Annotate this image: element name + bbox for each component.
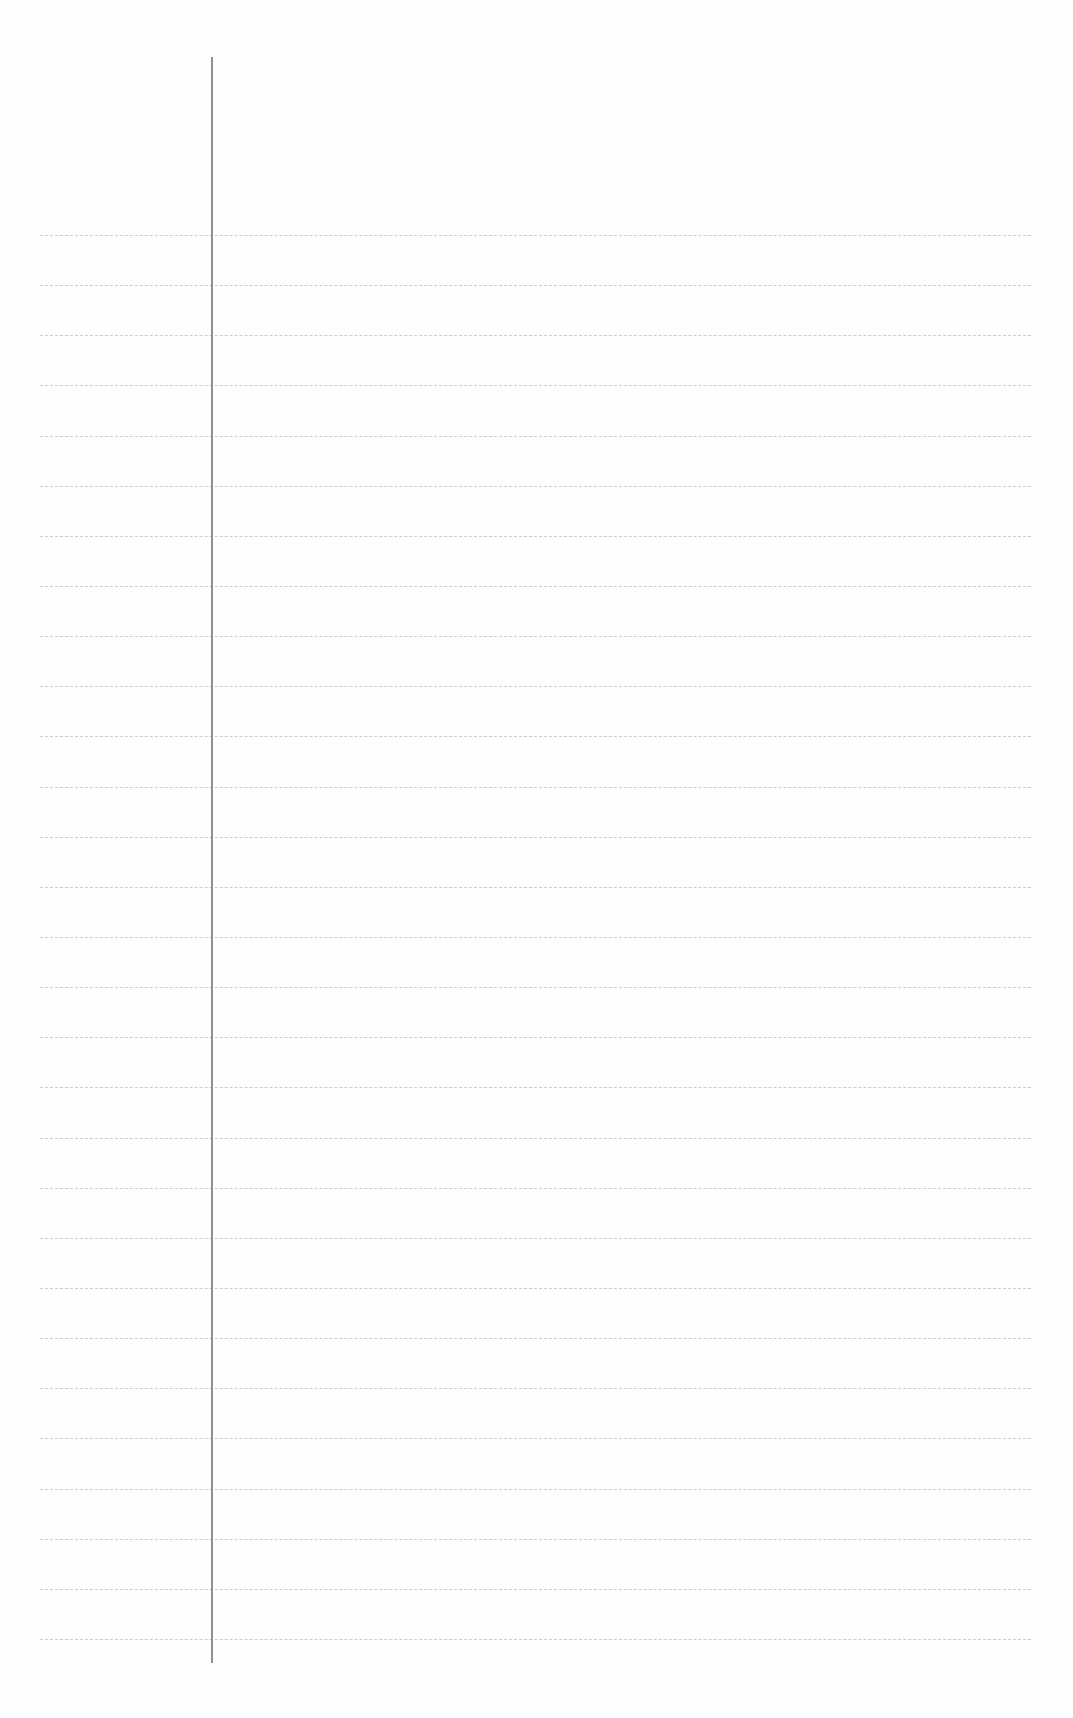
rule-line [40, 1138, 1031, 1139]
lined-paper-page [0, 0, 1073, 1718]
rule-line [40, 1489, 1031, 1490]
rule-line [40, 586, 1031, 587]
rule-line [40, 285, 1031, 286]
rule-line [40, 235, 1031, 236]
rule-line [40, 1037, 1031, 1038]
rule-line [40, 1438, 1031, 1439]
margin-line [211, 57, 213, 1663]
rule-line [40, 736, 1031, 737]
rule-line [40, 636, 1031, 637]
rule-line [40, 987, 1031, 988]
rule-line [40, 385, 1031, 386]
rule-line [40, 1188, 1031, 1189]
rule-line [40, 1388, 1031, 1389]
rule-line [40, 1589, 1031, 1590]
rule-line [40, 486, 1031, 487]
rule-line [40, 536, 1031, 537]
rule-line [40, 1338, 1031, 1339]
rule-line [40, 837, 1031, 838]
rule-line [40, 1288, 1031, 1289]
rule-line [40, 937, 1031, 938]
rule-line [40, 335, 1031, 336]
rule-line [40, 787, 1031, 788]
rule-line [40, 1539, 1031, 1540]
rule-line [40, 686, 1031, 687]
rule-line [40, 1087, 1031, 1088]
rule-line [40, 887, 1031, 888]
rule-line [40, 436, 1031, 437]
rule-line [40, 1639, 1031, 1640]
rule-line [40, 1238, 1031, 1239]
